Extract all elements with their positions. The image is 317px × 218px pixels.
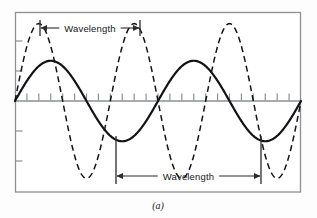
bottom-wavelength-label: Wavelength	[163, 171, 214, 182]
figure-caption: (a)	[152, 200, 164, 212]
wave-figure: Wavelength Wavelength (a)	[0, 0, 317, 218]
wavelength-diagram: Wavelength Wavelength (a)	[0, 0, 317, 218]
top-wavelength-label: Wavelength	[64, 23, 115, 34]
